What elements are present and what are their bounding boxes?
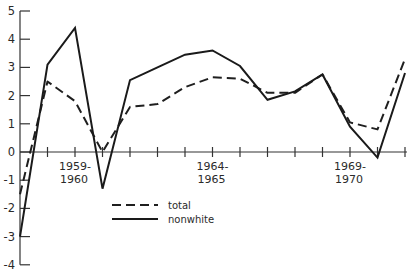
y-tick-label: 1	[8, 117, 15, 131]
x-tick-label: 1960	[60, 173, 88, 186]
series-line-nonwhite	[20, 28, 405, 237]
legend: total nonwhite	[112, 200, 214, 225]
y-tick-label: 0	[8, 145, 15, 159]
legend-label-total: total	[168, 200, 191, 211]
y-axis: 543210-1-2-3-4	[4, 4, 30, 271]
x-tick-label: 1965	[198, 173, 226, 186]
legend-label-nonwhite: nonwhite	[168, 214, 214, 225]
y-tick-label: -4	[4, 258, 15, 271]
y-tick-label: -3	[4, 230, 15, 244]
y-tick-label: 3	[8, 60, 15, 74]
y-tick-label: 5	[8, 4, 15, 18]
y-tick-label: -2	[4, 201, 15, 215]
line-chart: 543210-1-2-3-4 1959-19601964-19651969-19…	[0, 0, 413, 271]
x-axis: 1959-19601964-19651969-1970	[20, 147, 407, 186]
y-tick-label: 2	[8, 89, 15, 103]
x-tick-label: 1964-	[197, 160, 229, 173]
x-tick-label: 1959-	[59, 160, 91, 173]
y-tick-label: 4	[8, 32, 15, 46]
series-lines	[20, 28, 405, 237]
x-tick-label: 1969-	[334, 160, 366, 173]
y-tick-label: -1	[4, 173, 15, 187]
x-tick-label: 1970	[335, 173, 363, 186]
